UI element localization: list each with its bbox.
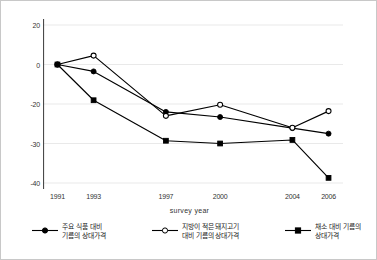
y-tick-label-0: 20 <box>33 22 40 29</box>
legend-label-1-line1: 지방이 적은 돼지고기 <box>182 223 240 232</box>
y-tick-label-4: -40 <box>30 180 40 187</box>
data-point-s0-3 <box>218 115 223 120</box>
x-tick-label-0: 1991 <box>50 193 65 200</box>
legend-label-1: 지방이 적은 돼지고기 대비 기름의 상대가격 <box>182 223 240 240</box>
plot-area <box>43 19 343 189</box>
data-point-s2-5 <box>326 175 331 180</box>
legend-label-0-line2: 기름의 상대가격 <box>62 232 106 241</box>
y-tick-label-3: -30 <box>30 140 40 147</box>
legend-label-2-line2: 상대가격 <box>315 232 361 241</box>
x-tick-label-5: 2006 <box>321 193 336 200</box>
data-point-s2-3 <box>218 141 223 146</box>
x-axis-tick-labels: 199119931997200020042006 <box>43 193 343 207</box>
legend-label-0: 주요 식품 대비 기름의 상대가격 <box>62 223 106 240</box>
data-point-s2-0 <box>55 62 60 67</box>
data-point-s1-3 <box>218 102 223 107</box>
open-circle-icon <box>151 225 179 236</box>
y-tick-label-1: 0 <box>36 61 40 68</box>
legend-item-0: 주요 식품 대비 기름의 상대가격 <box>31 223 106 240</box>
data-point-s2-2 <box>163 138 168 143</box>
data-point-s2-4 <box>290 138 295 143</box>
data-point-s1-2 <box>163 113 168 118</box>
y-tick-label-2: -20 <box>30 101 40 108</box>
data-point-s1-1 <box>91 53 96 58</box>
chart-svg <box>43 19 343 189</box>
y-axis-tick-labels: 200-20-30-40 <box>19 19 40 189</box>
legend-label-2: 채소 대비 기름의 상대가격 <box>315 223 361 240</box>
data-point-s0-5 <box>326 131 331 136</box>
x-tick-label-2: 1997 <box>159 193 174 200</box>
legend-label-2-line1: 채소 대비 기름의 <box>315 223 361 232</box>
x-tick-label-3: 2000 <box>213 193 228 200</box>
data-point-s2-1 <box>91 98 96 103</box>
legend-label-0-line1: 주요 식품 대비 <box>62 223 106 232</box>
data-point-s1-5 <box>326 109 331 114</box>
filled-circle-icon <box>31 225 59 236</box>
legend-label-1-line2: 대비 기름의 상대가격 <box>182 232 240 241</box>
filled-square-icon <box>284 225 312 236</box>
x-tick-label-1: 1993 <box>86 193 101 200</box>
chart-legend: 주요 식품 대비 기름의 상대가격 지방이 적은 돼지고기 대비 기름의 상대가… <box>31 223 361 255</box>
chart-container: 200-20-30-40 199119931997200020042006 su… <box>0 0 377 260</box>
x-tick-label-4: 2004 <box>285 193 300 200</box>
x-axis-title: survey year <box>1 207 377 214</box>
data-point-s0-1 <box>91 69 96 74</box>
legend-item-1: 지방이 적은 돼지고기 대비 기름의 상대가격 <box>151 223 240 240</box>
data-point-s1-4 <box>290 125 295 130</box>
legend-item-2: 채소 대비 기름의 상대가격 <box>284 223 361 240</box>
